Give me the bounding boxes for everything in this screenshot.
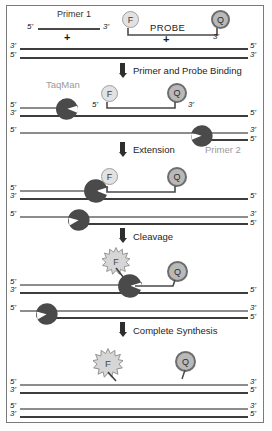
cleavage-lower-new-strand — [43, 317, 248, 319]
template-top-strand — [20, 48, 248, 50]
arrow-step-binding — [119, 63, 126, 78]
svg-text:F: F — [105, 358, 111, 369]
probe-bound-three-prime: 3' — [188, 101, 194, 109]
template-bottom-left-end: 5' — [10, 51, 16, 59]
binding-lower-right-top: 3' — [250, 126, 256, 134]
extension-template-three-prime: 3' — [10, 192, 16, 200]
quencher-bead-cleavage: Q — [167, 261, 188, 282]
probe-backbone-extension — [104, 184, 182, 196]
cleavage-nascent-strand — [20, 284, 123, 286]
svg-text:F: F — [113, 257, 119, 267]
primer1-strand — [38, 28, 100, 30]
cleavage-template-three-prime: 3' — [10, 286, 16, 294]
taqman-polymerase-cleavage-lower — [35, 302, 59, 326]
taqman-polymerase-cleavage — [117, 273, 143, 299]
probe-three-prime: 3' — [213, 33, 219, 41]
product2-top-strand — [20, 408, 248, 410]
step-label-complete: Complete Synthesis — [133, 326, 217, 336]
product1-bottom-strand — [20, 392, 248, 394]
primer1-five-prime: 5' — [27, 23, 33, 31]
extension-lower-right-bottom: 5' — [250, 219, 256, 227]
product2-bottom-left-end: 3' — [10, 410, 16, 418]
product2-bottom-right-end: 5' — [250, 410, 256, 418]
quencher-bead-complete: Q — [175, 351, 196, 372]
extension-lower-new-strand — [87, 223, 248, 225]
step-label-cleavage: Cleavage — [133, 232, 173, 242]
extension-lower-five-prime: 5' — [10, 210, 16, 218]
template-bottom-strand — [20, 57, 248, 59]
binding-template-three-prime: 3' — [10, 109, 16, 117]
probe-bound-five-prime: 5' — [92, 101, 98, 109]
extension-template-strand — [20, 198, 248, 200]
primer1-three-prime: 3' — [103, 23, 109, 31]
fluorophore-tail-complete — [107, 372, 121, 384]
quencher-tail-complete — [179, 370, 193, 382]
binding-lower-five-prime: 5' — [10, 126, 16, 134]
arrow-step-complete — [119, 322, 126, 337]
extension-lower-right-top: 3' — [250, 210, 256, 218]
cleavage-lower-right-top: 3' — [250, 304, 256, 312]
binding-lower-right-bottom: 5' — [250, 135, 256, 143]
arrow-step-extension — [119, 142, 126, 157]
cleavage-lower-five-prime: 5' — [10, 304, 16, 312]
product1-bottom-left-end: 3' — [10, 386, 16, 394]
cleavage-lower-right-bottom: 5' — [250, 313, 256, 321]
probe-label: PROBE — [150, 23, 185, 33]
taqman-polymerase-extension — [83, 178, 109, 204]
taqman-label: TaqMan — [46, 80, 80, 90]
product1-top-strand — [20, 384, 248, 386]
plus-sign-primer: + — [64, 32, 70, 43]
primer1-label: Primer 1 — [57, 10, 91, 19]
product2-bottom-strand — [20, 416, 248, 418]
diagram-frame: Primer 1 5' 3' + F Q PROBE 3' + 3' 5' 5'… — [6, 5, 264, 423]
primer2-label: Primer 2 — [205, 145, 241, 155]
arrow-step-cleavage — [119, 228, 126, 243]
step-label-binding: Primer and Probe Binding — [133, 66, 242, 76]
template-bottom-right-end: 3' — [250, 51, 256, 59]
taqman-polymerase-binding — [55, 97, 79, 121]
taqman-polymerase-extension-lower — [67, 208, 91, 232]
binding-primer-strand — [20, 107, 60, 109]
template-top-right-end: 5' — [250, 42, 256, 50]
extension-lower-strand — [20, 216, 248, 218]
extension-template-right-end: 5' — [250, 192, 256, 200]
binding-template-right-end: 5' — [250, 109, 256, 117]
step-label-extension: Extension — [133, 145, 175, 155]
plus-sign-probe: + — [163, 34, 169, 45]
taqman-pcr-diagram: Primer 1 5' 3' + F Q PROBE 3' + 3' 5' 5'… — [0, 0, 272, 431]
template-top-left-end: 3' — [10, 42, 16, 50]
probe-backbone-bound — [104, 100, 182, 112]
cleavage-template-right-end: 5' — [250, 286, 256, 294]
product1-bottom-right-end: 5' — [250, 386, 256, 394]
